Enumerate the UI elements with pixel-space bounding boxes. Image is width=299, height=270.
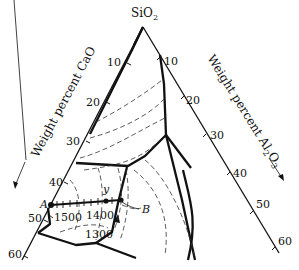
- left-ticks: [24, 63, 131, 258]
- svg-text:30: 30: [66, 135, 80, 148]
- svg-text:1300: 1300: [85, 228, 113, 241]
- triangle-axes: [22, 27, 279, 260]
- svg-text:1500: 1500: [54, 211, 82, 224]
- svg-text:60: 60: [278, 235, 292, 248]
- point-A-marker: [48, 202, 54, 208]
- svg-text:50: 50: [28, 212, 42, 225]
- point-A-label: A: [39, 198, 48, 211]
- point-y-label: y: [102, 183, 110, 196]
- svg-text:20: 20: [186, 94, 200, 107]
- right-ticks: [157, 57, 275, 250]
- right-axis-title: Weight percent Al2O3: [203, 52, 285, 170]
- svg-text:40: 40: [233, 167, 247, 180]
- tie-line-AB: [48, 197, 124, 208]
- svg-text:20: 20: [86, 96, 100, 109]
- svg-text:50: 50: [256, 198, 270, 211]
- left-axis-arrow: [13, 0, 26, 189]
- boundary-center: [76, 135, 195, 260]
- ternary-diagram: SiO2 10 20 30 40 50 60 10 20 30 40 50 60…: [0, 0, 299, 270]
- point-y-marker: [103, 198, 108, 203]
- svg-text:10: 10: [107, 56, 121, 69]
- svg-text:60: 60: [8, 248, 22, 261]
- svg-text:1400: 1400: [86, 209, 114, 222]
- point-B-label: B: [141, 203, 150, 216]
- apex-label-sio2: SiO2: [131, 6, 158, 22]
- svg-text:40: 40: [49, 176, 63, 189]
- svg-text:30: 30: [210, 129, 224, 142]
- isotherm-labels: 1500 1400 1300: [54, 209, 114, 241]
- svg-text:10: 10: [164, 55, 178, 68]
